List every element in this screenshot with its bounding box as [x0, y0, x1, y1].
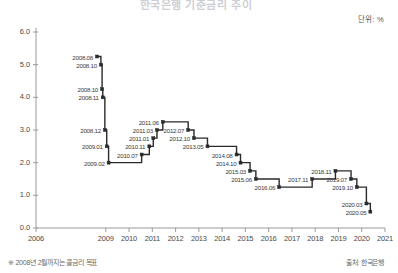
y-tick-label: 1.0 — [4, 190, 30, 199]
data-point-label: 2010.11 — [125, 143, 147, 150]
data-point-label: 2020.05 — [346, 208, 369, 215]
data-point-label: 2014.10 — [216, 159, 239, 166]
chart-source: 출처: 한국은행 — [346, 257, 384, 267]
y-tick-label: 2.0 — [4, 158, 30, 167]
data-point-label: 2012.10 — [169, 135, 192, 142]
y-tick-label: 0.0 — [4, 223, 30, 232]
data-point-label: 2008.08 — [72, 53, 95, 60]
data-point-label: 2010.07 — [117, 151, 140, 158]
data-point-label: 2015.03 — [225, 167, 248, 174]
x-tick-label: 2021 — [369, 234, 398, 243]
data-point-label: 2008.10 — [77, 86, 100, 93]
data-point-label: 2008.10 — [76, 61, 99, 68]
data-point-label: 2012.07 — [164, 127, 187, 134]
data-point-label: 2008.12 — [80, 127, 103, 134]
data-point-label: 2020.03 — [342, 200, 365, 207]
data-point-label: 2017.11 — [288, 176, 310, 183]
data-point-label: 2011.03 — [133, 127, 155, 134]
data-point-label: 2014.08 — [212, 151, 235, 158]
data-point-label: 2011.01 — [129, 135, 151, 142]
data-point-label: 2011.06 — [139, 118, 161, 125]
chart-footnote: ※ 2008년 2월까지는 콜금리 목표 — [8, 257, 97, 267]
data-point-label: 2019.07 — [326, 176, 349, 183]
data-point-label: 2018.11 — [311, 167, 333, 174]
data-point-label: 2015.06 — [231, 176, 254, 183]
data-point-label: 2016.06 — [255, 184, 278, 191]
data-point-label: 2013.05 — [183, 143, 206, 150]
x-tick-label: 2006 — [20, 234, 52, 243]
y-tick-label: 5.0 — [4, 60, 30, 69]
y-tick-label: 4.0 — [4, 92, 30, 101]
data-point-label: 2019.10 — [332, 184, 355, 191]
y-tick-label: 3.0 — [4, 125, 30, 134]
data-point-label: 2009.01 — [82, 143, 105, 150]
y-tick-label: 6.0 — [4, 27, 30, 36]
data-point-label: 2009.02 — [84, 159, 107, 166]
data-point-label: 2008.11 — [79, 94, 101, 101]
